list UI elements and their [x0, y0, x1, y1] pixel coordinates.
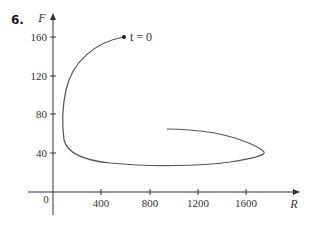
- y-axis-arrow-icon: [50, 13, 56, 20]
- start-point: [122, 35, 126, 39]
- x-axis-arrow-icon: [293, 189, 300, 195]
- x-tick-labels: 400 800 1200 1600: [93, 197, 258, 209]
- y-axis-label: F: [37, 11, 46, 25]
- y-tick-labels: 40 80 120 160: [31, 31, 48, 159]
- x-tick-label: 1600: [235, 197, 258, 209]
- start-annotation: t = 0: [130, 30, 152, 44]
- y-tick-label: 40: [36, 147, 48, 159]
- y-tick-label: 80: [36, 108, 48, 120]
- x-tick-label: 400: [93, 197, 110, 209]
- y-tick-label: 160: [31, 31, 48, 43]
- x-tick-label: 800: [142, 197, 159, 209]
- x-tick-label: 1200: [187, 197, 210, 209]
- trajectory-curve: [63, 37, 265, 166]
- y-tick-label: 120: [31, 70, 48, 82]
- phase-plot: 40 80 120 160 400 800 1200 1600 0 R F t …: [0, 0, 312, 229]
- x-axis-label: R: [289, 197, 298, 211]
- origin-label: 0: [43, 193, 49, 205]
